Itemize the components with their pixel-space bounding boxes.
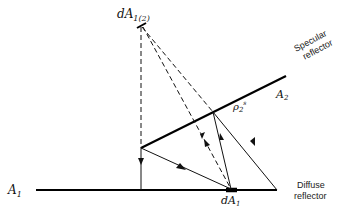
radiation-exchange-diagram: dA1(2) Specular reflector A2 ρ2s A1 dA1 …: [0, 0, 340, 210]
label-rho2s: ρ2s: [232, 99, 246, 114]
arrow-up-dashed-icon: [204, 139, 210, 147]
arrow-toward-specular-lower-icon: [176, 163, 186, 170]
arrow-down-to-a1-icon: [250, 137, 255, 146]
label-da1: dA1: [221, 194, 240, 208]
arrow-up-to-specular-point-icon: [219, 133, 224, 140]
label-a1: A1: [7, 183, 22, 199]
label-da1-2: dA1(2): [117, 7, 150, 23]
label-specular-reflector: Specular reflector: [292, 27, 335, 63]
label-diffuse-reflector: Diffuse reflector: [294, 180, 327, 201]
image-ray-to-reflection-point: [142, 27, 213, 112]
label-a2: A2: [275, 88, 289, 102]
image-ray-to-da1: [143, 27, 231, 189]
arrow-vertical-down-icon: [138, 158, 144, 165]
ray-da1-to-specular-lower: [141, 148, 231, 189]
